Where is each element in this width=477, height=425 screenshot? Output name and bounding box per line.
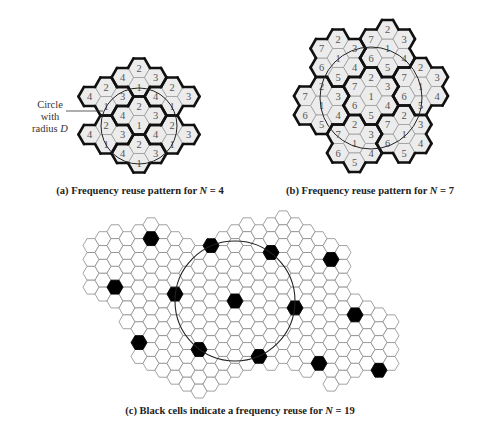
cell-channel-label: 1 [352,138,357,149]
black-reuse-cell [371,363,387,377]
cell-channel-label: 7 [385,119,390,130]
cell-channel-label: 3 [418,119,423,130]
hex-cell [335,273,351,287]
annotation-line-2: radius D [30,123,70,135]
frequency-reuse-figure: 1243124312431243124312431243 12345671234… [0,0,477,425]
cell-channel-label: 1 [136,120,141,131]
panel-c-reuse-n19 [83,211,399,398]
cell-channel-label: 5 [368,110,373,121]
cell-channel-label: 6 [302,110,307,121]
cell-channel-label: 3 [153,148,158,159]
cell-channel-label: 2 [103,120,108,131]
hex-cell [383,315,399,329]
cell-channel-label: 4 [418,138,424,149]
hex-cell [383,343,399,357]
caption-panel-a: (a) Frequency reuse pattern for N = 4 [56,185,223,196]
cell-channel-label: 2 [368,72,373,83]
cell-channel-label: 5 [335,72,340,83]
cell-channel-label: 6 [335,148,340,159]
cell-channel-label: 3 [335,91,340,102]
cell-channel-label: 2 [169,120,174,131]
panel-a-reuse-n4: 1243124312431243124312431243 [79,58,200,172]
cell-channel-label: 2 [352,119,357,130]
black-reuse-cell [131,336,147,350]
cell-channel-label: 2 [136,101,141,112]
cell-channel-label: 4 [352,62,358,73]
cell-channel-label: 2 [136,139,141,150]
cell-channel-label: 3 [120,129,125,140]
black-reuse-cell [323,252,339,266]
cell-channel-label: 3 [186,129,191,140]
cell-channel-label: 6 [352,100,357,111]
cell-channel-label: 7 [368,34,373,45]
cell-channel-label: 7 [352,81,357,92]
caption-panel-b: (b) Frequency reuse pattern for N = 7 [286,185,454,196]
black-reuse-cell [227,294,243,308]
cell-channel-label: 2 [385,24,390,35]
cell-channel-label: 5 [385,62,390,73]
panel-b-reuse-n7: 1234567123456712345671234567123456712345… [294,20,448,172]
cell-channel-label: 1 [136,158,141,169]
cell-channel-label: 5 [352,157,357,168]
cell-channel-label: 4 [120,148,126,159]
cell-channel-label: 4 [120,110,126,121]
circle-radius-annotation: Circle with radius D [30,99,70,135]
cell-channel-label: 3 [385,81,390,92]
cell-channel-label: 5 [401,148,406,159]
cell-channel-label: 3 [434,72,439,83]
cell-channel-label: 4 [153,129,159,140]
cell-channel-label: 6 [385,138,390,149]
cell-channel-label: 4 [335,110,341,121]
black-reuse-cell [311,356,327,370]
cell-channel-label: 3 [153,110,158,121]
cell-channel-label: 7 [401,72,406,83]
cell-channel-label: 5 [319,119,324,130]
cell-channel-label: 3 [401,34,406,45]
cell-channel-label: 1 [368,91,373,102]
cell-channel-label: 6 [401,91,406,102]
cell-channel-label: 6 [319,62,324,73]
hex-cells: 1243124312431243124312431243 [79,58,200,172]
cell-channel-label: 7 [319,43,324,54]
black-reuse-cell [347,308,363,322]
cell-channel-label: 4 [434,91,440,102]
hex-cell [383,329,399,343]
annotation-variable-d: D [60,123,68,134]
annotation-line-1: Circle with [30,99,70,123]
cell-channel-label: 3 [352,43,357,54]
cell-channel-label: 2 [335,34,340,45]
cell-channel-label: 3 [153,72,158,83]
cell-channel-label: 1 [136,82,141,93]
cell-channel-label: 2 [401,110,406,121]
cell-channel-label: 3 [368,129,373,140]
cell-channel-label: 6 [368,53,373,64]
black-reuse-cell [143,232,159,246]
black-reuse-cell [107,280,123,294]
cell-channel-label: 2 [136,63,141,74]
caption-panel-c: (c) Black cells indicate a frequency reu… [125,405,354,416]
cell-channel-label: 2 [418,62,423,73]
cell-channel-label: 4 [385,100,391,111]
cell-channel-label: 4 [87,129,93,140]
cell-channel-label: 2 [103,82,108,93]
cell-channel-label: 2 [169,82,174,93]
cell-channel-label: 1 [385,43,390,54]
cell-channel-label: 7 [302,91,307,102]
cell-channel-label: 4 [120,72,126,83]
cell-channel-label: 4 [87,91,93,102]
cell-channel-label: 3 [186,91,191,102]
